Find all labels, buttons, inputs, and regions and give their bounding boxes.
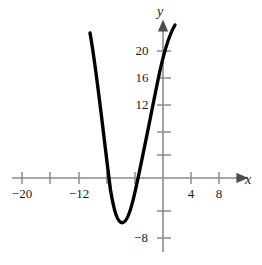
x-axis-title: x (245, 172, 251, 188)
y-tick-label-16: 16 (136, 70, 149, 86)
x-tick-label-8: 8 (216, 186, 223, 202)
parabola-figure: −20 −12 4 8 20 16 12 −8 x y (0, 0, 262, 265)
x-tick-label--20: −20 (12, 186, 32, 202)
x-tick-label--12: −12 (69, 186, 89, 202)
y-tick-label-12: 12 (136, 97, 149, 113)
y-tick-label--8: −8 (134, 230, 148, 246)
x-tick-label-4: 4 (188, 186, 195, 202)
plot-canvas (0, 0, 262, 265)
y-tick-label-20: 20 (136, 43, 149, 59)
y-axis-title: y (157, 4, 163, 20)
